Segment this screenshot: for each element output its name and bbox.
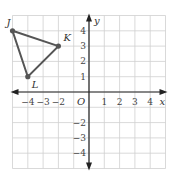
x-tick-label: 4 — [147, 97, 153, 107]
y-axis-label: y — [93, 15, 100, 26]
triangle-jkl — [13, 31, 59, 77]
x-tick-label: 2 — [117, 97, 123, 107]
y-tick-label: 1 — [80, 72, 86, 82]
x-tick-label: 1 — [101, 97, 107, 107]
vertex-point-l — [25, 74, 30, 79]
y-tick-label: 4 — [80, 26, 86, 36]
x-axis-left-arrow-icon — [11, 89, 19, 95]
origin-label: O — [77, 96, 85, 107]
y-tick-label: −4 — [73, 148, 87, 158]
y-tick-label: −3 — [73, 133, 87, 143]
x-axis-label: x — [160, 96, 166, 107]
x-tick-label: −3 — [36, 97, 50, 107]
y-axis-down-arrow-icon — [86, 163, 92, 171]
coordinate-grid: xyO−4−3−212344321−2−3−4JKL — [0, 0, 175, 185]
vertex-point-k — [56, 44, 61, 49]
vertex-point-j — [10, 28, 15, 33]
x-tick-label: −2 — [52, 97, 65, 107]
vertex-label-j: J — [5, 17, 12, 28]
y-tick-label: 3 — [80, 41, 86, 51]
vertex-label-l: L — [31, 79, 39, 90]
x-tick-label: 3 — [132, 97, 138, 107]
y-tick-label: 2 — [80, 56, 86, 66]
x-tick-label: −4 — [21, 97, 35, 107]
vertex-label-k: K — [62, 32, 71, 43]
y-tick-label: −2 — [73, 118, 86, 128]
y-axis-up-arrow-icon — [86, 14, 92, 22]
x-axis-right-arrow-icon — [160, 89, 168, 95]
